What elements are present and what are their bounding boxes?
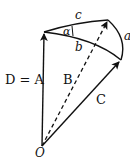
label-C: C	[96, 93, 106, 106]
label-alpha: α	[63, 26, 70, 37]
label-d-eq-a: D = A	[5, 73, 44, 86]
label-O: O	[35, 147, 45, 159]
label-c: c	[75, 9, 82, 21]
angle-mark	[72, 26, 73, 36]
label-b: b	[75, 41, 83, 53]
vector-c	[42, 62, 119, 146]
label-a: a	[124, 30, 130, 42]
vector-a	[42, 34, 44, 146]
arc-a	[108, 20, 123, 60]
label-B: B	[63, 73, 73, 86]
